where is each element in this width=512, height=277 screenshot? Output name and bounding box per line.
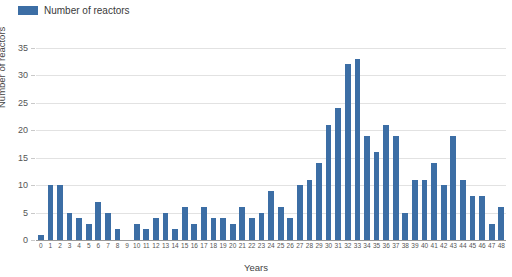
bar-cell[interactable] bbox=[142, 48, 152, 240]
bar[interactable] bbox=[297, 185, 303, 240]
bar[interactable] bbox=[268, 191, 274, 240]
bar-cell[interactable] bbox=[362, 48, 372, 240]
bar-cell[interactable] bbox=[333, 48, 343, 240]
bar[interactable] bbox=[220, 218, 226, 240]
bar[interactable] bbox=[287, 218, 293, 240]
bar-cell[interactable] bbox=[420, 48, 430, 240]
bar[interactable] bbox=[335, 108, 341, 240]
bar-cell[interactable] bbox=[218, 48, 228, 240]
bar[interactable] bbox=[345, 64, 351, 240]
bar-cell[interactable] bbox=[276, 48, 286, 240]
bar-cell[interactable] bbox=[468, 48, 478, 240]
bar[interactable] bbox=[249, 218, 255, 240]
bar-cell[interactable] bbox=[439, 48, 449, 240]
bar[interactable] bbox=[278, 207, 284, 240]
bar-cell[interactable] bbox=[122, 48, 132, 240]
bar[interactable] bbox=[230, 224, 236, 240]
bar-cell[interactable] bbox=[170, 48, 180, 240]
bar[interactable] bbox=[153, 218, 159, 240]
bar-cell[interactable] bbox=[410, 48, 420, 240]
bar-cell[interactable] bbox=[401, 48, 411, 240]
bar-cell[interactable] bbox=[487, 48, 497, 240]
bar[interactable] bbox=[489, 224, 495, 240]
bar-cell[interactable] bbox=[151, 48, 161, 240]
bar-cell[interactable] bbox=[103, 48, 113, 240]
bar-cell[interactable] bbox=[190, 48, 200, 240]
bar-cell[interactable] bbox=[237, 48, 247, 240]
bar[interactable] bbox=[182, 207, 188, 240]
bar-cell[interactable] bbox=[257, 48, 267, 240]
bar-cell[interactable] bbox=[94, 48, 104, 240]
x-tick-label: 38 bbox=[401, 242, 411, 250]
bar[interactable] bbox=[450, 136, 456, 240]
bar[interactable] bbox=[431, 163, 437, 240]
bar[interactable] bbox=[402, 213, 408, 240]
bar-cell[interactable] bbox=[391, 48, 401, 240]
bar-series bbox=[36, 48, 506, 240]
bar-cell[interactable] bbox=[381, 48, 391, 240]
bar-cell[interactable] bbox=[295, 48, 305, 240]
bar-cell[interactable] bbox=[113, 48, 123, 240]
bar-cell[interactable] bbox=[84, 48, 94, 240]
bar-cell[interactable] bbox=[132, 48, 142, 240]
bar[interactable] bbox=[460, 180, 466, 240]
bar[interactable] bbox=[48, 185, 54, 240]
bar[interactable] bbox=[57, 185, 63, 240]
bar[interactable] bbox=[105, 213, 111, 240]
bar[interactable] bbox=[95, 202, 101, 240]
bar-cell[interactable] bbox=[65, 48, 75, 240]
bar-cell[interactable] bbox=[449, 48, 459, 240]
bar[interactable] bbox=[441, 185, 447, 240]
bar-cell[interactable] bbox=[429, 48, 439, 240]
bar-cell[interactable] bbox=[46, 48, 56, 240]
bar[interactable] bbox=[326, 125, 332, 240]
bar-cell[interactable] bbox=[458, 48, 468, 240]
bar[interactable] bbox=[67, 213, 73, 240]
bar[interactable] bbox=[163, 213, 169, 240]
bar-cell[interactable] bbox=[74, 48, 84, 240]
bar-cell[interactable] bbox=[55, 48, 65, 240]
bar[interactable] bbox=[307, 180, 313, 240]
bar-cell[interactable] bbox=[353, 48, 363, 240]
bar-cell[interactable] bbox=[266, 48, 276, 240]
bar[interactable] bbox=[143, 229, 149, 240]
bar-cell[interactable] bbox=[477, 48, 487, 240]
bar-cell[interactable] bbox=[343, 48, 353, 240]
bar[interactable] bbox=[211, 218, 217, 240]
bar[interactable] bbox=[191, 224, 197, 240]
bar[interactable] bbox=[479, 196, 485, 240]
bar[interactable] bbox=[364, 136, 370, 240]
bar-cell[interactable] bbox=[285, 48, 295, 240]
bar-cell[interactable] bbox=[161, 48, 171, 240]
bar-cell[interactable] bbox=[324, 48, 334, 240]
bar-cell[interactable] bbox=[199, 48, 209, 240]
bar[interactable] bbox=[422, 180, 428, 240]
bar[interactable] bbox=[393, 136, 399, 240]
bar[interactable] bbox=[374, 152, 380, 240]
bar[interactable] bbox=[239, 207, 245, 240]
bar-cell[interactable] bbox=[314, 48, 324, 240]
bar-cell[interactable] bbox=[228, 48, 238, 240]
bar-cell[interactable] bbox=[305, 48, 315, 240]
bar[interactable] bbox=[412, 180, 418, 240]
bar-cell[interactable] bbox=[247, 48, 257, 240]
bar[interactable] bbox=[134, 224, 140, 240]
bar[interactable] bbox=[201, 207, 207, 240]
bar[interactable] bbox=[316, 163, 322, 240]
bar-cell[interactable] bbox=[180, 48, 190, 240]
bar[interactable] bbox=[470, 196, 476, 240]
bar-cell[interactable] bbox=[209, 48, 219, 240]
bar[interactable] bbox=[115, 229, 121, 240]
bar[interactable] bbox=[355, 59, 361, 240]
bar[interactable] bbox=[86, 224, 92, 240]
bar[interactable] bbox=[172, 229, 178, 240]
bar[interactable] bbox=[498, 207, 504, 240]
x-tick-label: 40 bbox=[420, 242, 430, 250]
bar[interactable] bbox=[383, 125, 389, 240]
x-tick-label: 29 bbox=[314, 242, 324, 250]
bar-cell[interactable] bbox=[372, 48, 382, 240]
bar-cell[interactable] bbox=[36, 48, 46, 240]
bar[interactable] bbox=[259, 213, 265, 240]
bar[interactable] bbox=[76, 218, 82, 240]
bar-cell[interactable] bbox=[497, 48, 507, 240]
